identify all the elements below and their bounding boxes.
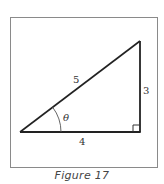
hypotenuse-side — [20, 41, 140, 132]
angle-arc — [53, 107, 61, 132]
figure-caption: Figure 17 — [0, 169, 164, 182]
right-angle-marker — [133, 125, 140, 132]
label-hypotenuse: 5 — [73, 74, 79, 85]
label-adjacent: 4 — [79, 136, 85, 147]
figure-17: 5 3 4 θ Figure 17 — [0, 0, 164, 184]
triangle-diagram: 5 3 4 θ — [0, 0, 164, 184]
label-angle-theta: θ — [63, 112, 69, 123]
label-opposite: 3 — [143, 85, 149, 96]
